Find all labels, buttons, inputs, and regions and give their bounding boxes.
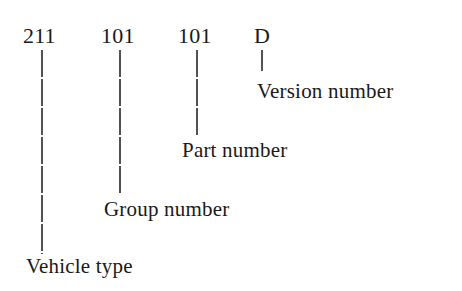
label-version-number: Version number — [257, 81, 393, 102]
code-version-number: D — [254, 25, 270, 47]
code-group-number: 101 — [101, 25, 135, 47]
code-vehicle-type: 211 — [23, 25, 56, 47]
label-vehicle-type: Vehicle type — [26, 256, 133, 277]
label-group-number: Group number — [104, 199, 229, 220]
code-part-number: 101 — [178, 25, 212, 47]
label-part-number: Part number — [182, 140, 287, 161]
